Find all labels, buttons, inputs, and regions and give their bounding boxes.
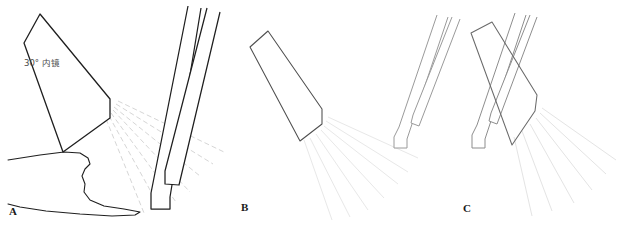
panel-c-group: C [394,13,616,216]
light-ray [542,108,616,160]
tissue-outline-a [8,152,140,216]
panel-label-a: A [9,205,17,217]
endoscope-body-b [250,31,322,141]
light-ray [106,119,144,213]
instrument-c-left-1 [394,15,448,148]
light-ray [536,118,592,190]
panel-b-group: B [241,31,418,220]
figure-canvas: 30° 内镜 A B [0,0,621,225]
panel-label-c: C [463,202,471,214]
light-ray [310,138,350,217]
light-ray [522,131,552,211]
panel-a-annotation: 30° 内镜 [24,58,60,68]
light-ray [324,126,398,184]
light-ray [514,137,532,216]
surgical-endoscope-figure: 30° 内镜 A B [0,0,621,225]
panel-a-group: 30° 内镜 A [8,6,224,217]
endoscope-body-a [24,14,110,152]
light-ray [530,124,574,203]
panel-c-light-rays [514,108,616,216]
panel-label-b: B [241,201,249,213]
